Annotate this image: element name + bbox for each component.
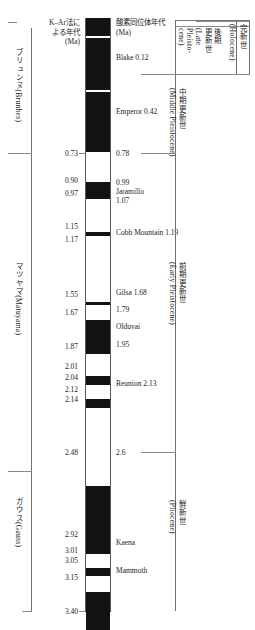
kar-tick-label: 2.01 <box>40 362 78 372</box>
polarity-band-normal <box>86 486 110 554</box>
o18-event-label: Gilsa 1.68 <box>116 288 147 298</box>
kar-tick-label: 0.97 <box>40 189 78 199</box>
kar-tick-label: 1.55 <box>40 290 78 300</box>
epoch-label-early-pleistocene-ja: 前期更新世 <box>177 262 186 304</box>
o18-event-label: Mammoth <box>116 566 147 576</box>
chron-label-matuyama: マツヤマ(Matuyama) <box>14 262 23 335</box>
chron-label-brunhes: ブリュンヌ(Brunhes) <box>14 48 23 122</box>
kar-tick-label: 3.15 <box>40 573 78 583</box>
epoch-label-late-pleistocene-en-c: cene) <box>177 28 186 46</box>
kar-header-line1: K–Ar法に <box>20 18 80 28</box>
epoch-label-late-pleistocene-en-b: Pleisto- <box>185 28 194 53</box>
kar-tick-label: 2.48 <box>40 448 78 458</box>
kar-tick-mark <box>79 611 85 612</box>
o18-event-label: 2.6 <box>116 448 125 458</box>
kar-tick-label: 0.90 <box>40 176 78 186</box>
polarity-band-normal <box>86 38 110 90</box>
o18-event-label: 0.78 <box>116 149 129 159</box>
chron-label-matuyama-en: (Matuyama) <box>14 295 23 335</box>
epoch-label-late-pleistocene-ja-a: 後期 <box>212 28 221 45</box>
epoch-label-middle-pleistocene-ja: 中期更新世 <box>177 88 186 130</box>
kar-header-line2: よる年代 <box>20 28 80 38</box>
o18-event-label: 1.07 <box>116 196 129 206</box>
epoch-boundary-late-middle <box>141 74 250 75</box>
chron-label-brunhes-en: (Brunhes) <box>14 90 23 123</box>
polarity-band-reversed <box>86 236 110 302</box>
o18-event-label: 1.95 <box>116 340 129 350</box>
epoch-label-pliocene-ja: 鮮新世 <box>177 500 186 525</box>
chron-label-gauss-en: (Gauss) <box>14 522 23 547</box>
o18-event-label: Cobb Mountain 1.19 <box>116 228 178 238</box>
epoch-label-holocene-ja: 完新世 <box>238 24 247 49</box>
chron-boundary-matuyama-gauss <box>8 471 32 472</box>
kar-tick-label: 2.12 <box>40 385 78 395</box>
o18-event-label: Emperor 0.42 <box>116 107 157 117</box>
kar-tick-label: 2.04 <box>40 373 78 383</box>
epoch-label-late-pleistocene-ja-b: 更新世 <box>203 28 212 53</box>
kar-tick-label: 1.67 <box>40 308 78 318</box>
polarity-event-kaena <box>86 554 110 568</box>
kar-tick-label: 3.40 <box>40 607 78 617</box>
kar-header-dash <box>8 22 17 23</box>
kar-tick-label: 3.05 <box>40 556 78 566</box>
o18-event-label: 1.79 <box>116 305 129 315</box>
polarity-event-reunion-2 <box>86 399 110 408</box>
polarity-band-reversed <box>86 408 110 486</box>
epoch-connector-holocene <box>196 21 250 22</box>
kar-column-header: K–Ar法に よる年代 (Ma) <box>20 18 80 47</box>
chron-label-gauss: ガウス(Gauss) <box>14 497 23 547</box>
polarity-band-reversed <box>86 385 110 399</box>
o18-event-label: Reunion 2.13 <box>116 379 156 389</box>
polarity-event-reunion-1 <box>86 376 110 385</box>
kar-tick-label: 3.01 <box>40 546 78 556</box>
polarity-band-normal <box>86 92 110 152</box>
o18-event-label: Olduvai <box>116 322 140 332</box>
chron-label-gauss-ja: ガウス <box>14 497 23 522</box>
polarity-event-olduvai <box>86 320 110 354</box>
kar-tick-label: 1.15 <box>40 222 78 232</box>
epoch-label-early-pleistocene-en: (Early Pleistocene) <box>168 262 177 325</box>
epoch-label-holocene: 完新世 <box>238 24 247 49</box>
epoch-label-middle-pleistocene-en: (Middle Pleistocene) <box>168 88 177 157</box>
chron-axis-bottom-tick <box>22 611 32 612</box>
chron-label-brunhes-ja: ブリュンヌ <box>14 48 23 90</box>
kar-header-line3: (Ma) <box>20 37 80 47</box>
kar-tick-label: 0.73 <box>40 149 78 159</box>
epoch-label-late-pleistocene-en-a: (Late <box>194 28 203 45</box>
kar-tick-label: 1.17 <box>40 235 78 245</box>
kar-tick-label: 2.14 <box>40 395 78 405</box>
polarity-band-normal <box>86 18 110 36</box>
chron-label-matuyama-ja: マツヤマ <box>14 262 23 295</box>
kar-tick-mark <box>79 153 85 154</box>
kar-tick-label: 1.87 <box>40 342 78 352</box>
polarity-event-mammoth <box>86 576 110 592</box>
kar-tick-label: 2.92 <box>40 530 78 540</box>
polarity-band-normal <box>86 592 110 630</box>
chron-boundary-brunhes-matuyama <box>8 153 32 154</box>
epoch-label-pliocene-en: (Pliocene) <box>168 500 177 534</box>
geomagnetic-polarity-timescale: K–Ar法に よる年代 (Ma) 酸素同位体年代 (Ma) <box>0 0 255 630</box>
polarity-band-normal <box>86 568 110 576</box>
polarity-event-jaramillo <box>86 182 110 199</box>
o18-event-label: Kaena <box>116 538 135 548</box>
chron-axis-line <box>31 28 32 611</box>
epoch-far-right-edge <box>249 20 250 74</box>
epoch-label-holocene-en: (Holocene) <box>228 24 237 61</box>
polarity-band-reversed <box>86 152 110 182</box>
o18-event-label: Blake 0.12 <box>116 53 149 63</box>
polarity-band-reversed <box>86 354 110 376</box>
polarity-band-reversed <box>86 199 110 232</box>
polarity-band-reversed <box>86 305 110 320</box>
epoch-connector-early-pliocene <box>141 452 176 453</box>
polarity-column <box>85 18 111 612</box>
